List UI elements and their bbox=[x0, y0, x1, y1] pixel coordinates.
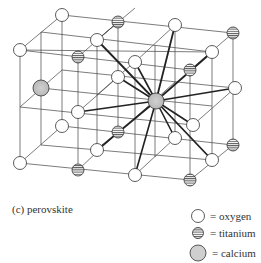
oxygen-symbol-icon bbox=[190, 208, 206, 224]
legend-item-titanium: = titanium bbox=[190, 225, 256, 241]
calcium-symbol-icon bbox=[188, 243, 208, 263]
legend-item-oxygen: = oxygen bbox=[190, 208, 251, 224]
perovskite-crystal-structure-diagram bbox=[0, 0, 261, 200]
legend-item-calcium: = calcium bbox=[188, 243, 256, 263]
legend-label-calcium: = calcium bbox=[212, 247, 256, 259]
figure-caption: (c) perovskite bbox=[12, 203, 73, 215]
legend-label-oxygen: = oxygen bbox=[210, 210, 251, 222]
oxygen-atoms bbox=[14, 9, 242, 182]
titanium-symbol-icon bbox=[190, 225, 206, 241]
legend-label-titanium: = titanium bbox=[210, 227, 256, 239]
